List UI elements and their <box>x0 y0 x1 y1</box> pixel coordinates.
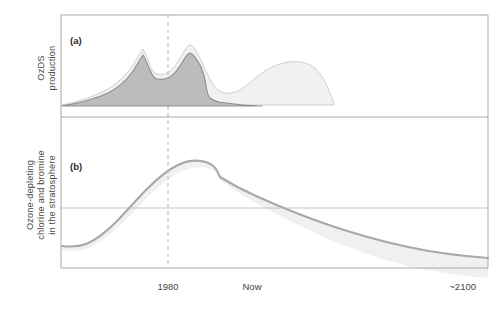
panel-b-axis-label-line-3: in the stratosphere <box>47 155 57 235</box>
panel-b-plot <box>62 161 488 278</box>
x-tick-label-1980: 1980 <box>157 281 178 292</box>
panel-b-tag: (b) <box>70 161 82 172</box>
panel-b-axis-label-line-2: chlorine and bromine <box>36 150 46 239</box>
x-tick-labels: 1980 Now ~2100 <box>157 281 476 292</box>
x-tick-label-now: Now <box>242 281 261 292</box>
panel-a-axis-label-line-1: OzDS <box>36 55 46 80</box>
panel-b-axis-label-line-1: Ozone-depleting <box>25 160 35 230</box>
panel-a-axis-label-line-2: production <box>47 46 57 91</box>
axis-frame <box>61 15 488 268</box>
figure-root: (a) (b) OzDS production Ozone-depleting … <box>0 0 504 311</box>
panel-b-axis-label: Ozone-depleting chlorine and bromine in … <box>25 150 57 239</box>
panel-a-axis-label: OzDS production <box>36 46 57 91</box>
x-tick-label-2100: ~2100 <box>449 281 476 292</box>
panel-b-uncertainty-band <box>62 161 488 278</box>
panel-a-tag: (a) <box>70 35 82 46</box>
figure-canvas: (a) (b) OzDS production Ozone-depleting … <box>0 0 504 311</box>
panel-a-plot <box>62 45 334 106</box>
